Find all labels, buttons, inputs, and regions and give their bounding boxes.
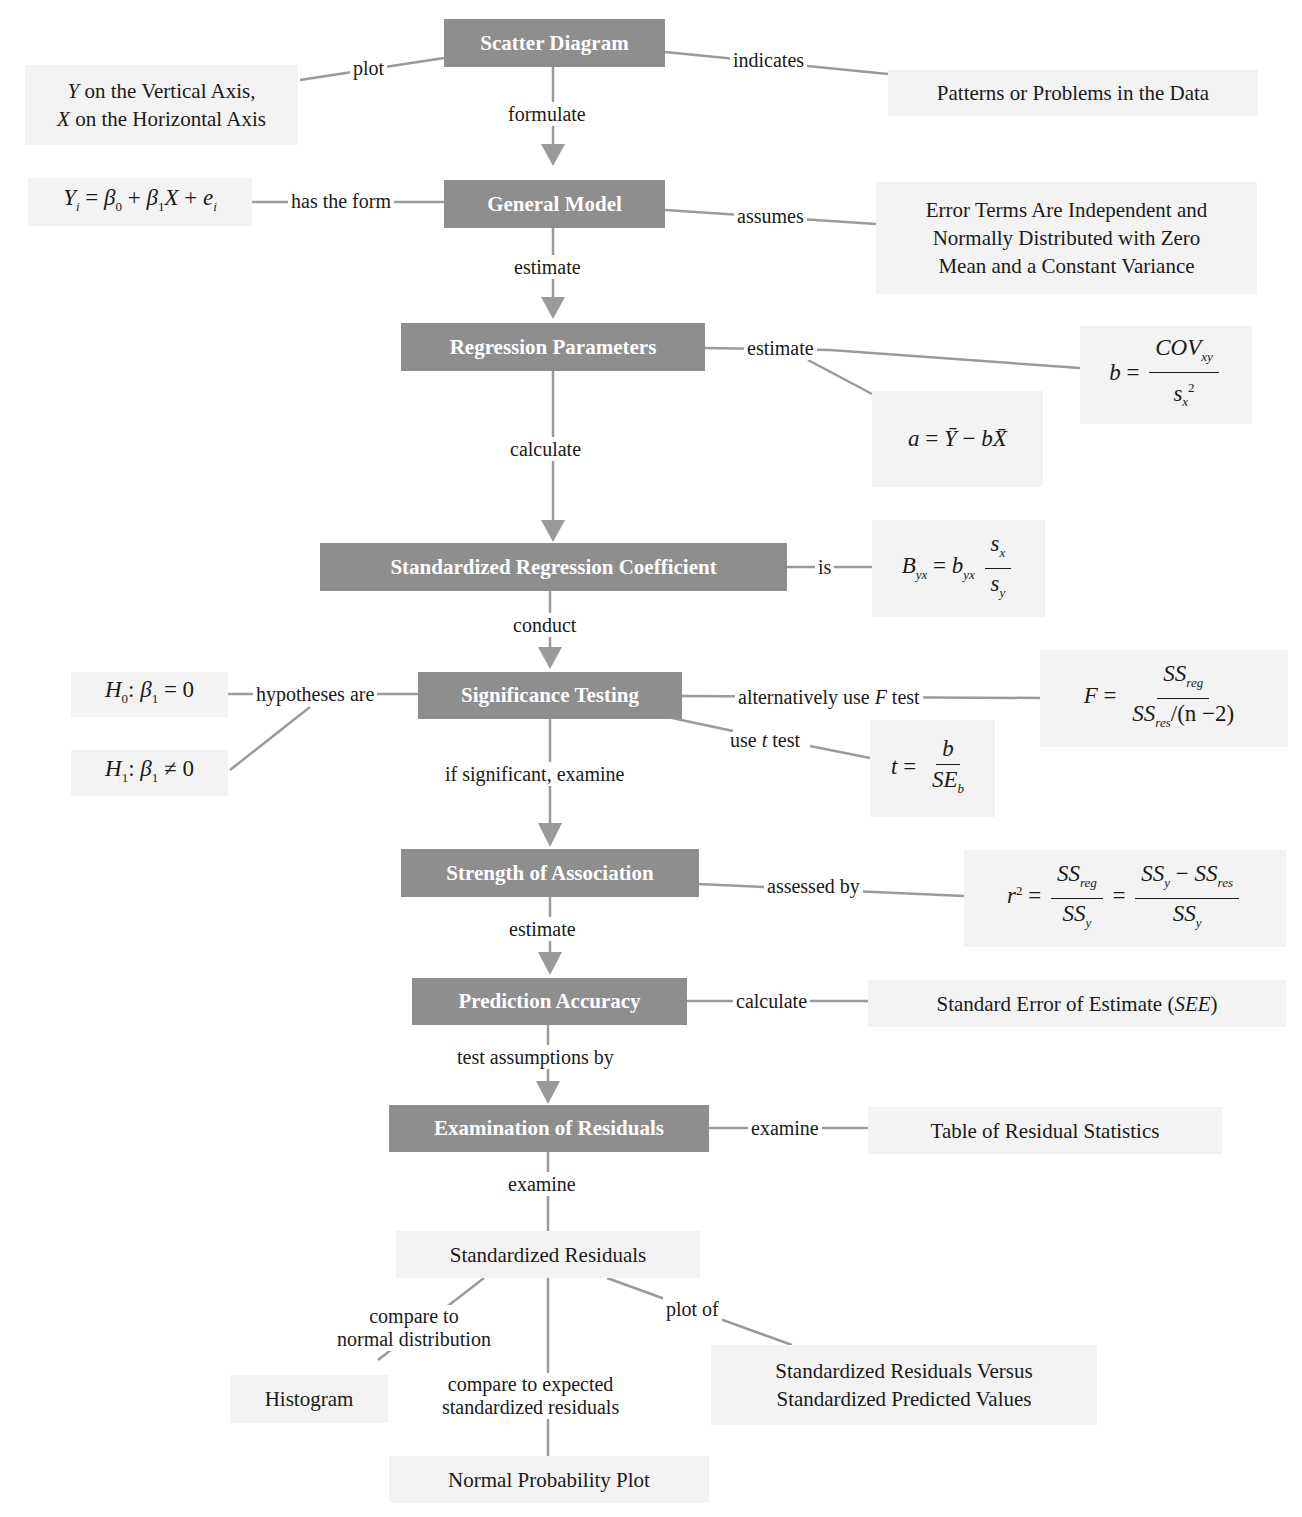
patterns-text: Patterns or Problems in the Data <box>937 79 1209 107</box>
link-use-t-test: use t test <box>727 728 803 752</box>
detail-r2-formula: r2 = SSregSSy = SSy − SSresSSy <box>964 850 1286 947</box>
detail-normal-probability-plot: Normal Probability Plot <box>389 1456 709 1503</box>
link-calculate-see: calculate <box>733 989 810 1013</box>
detail-versus-plot: Standardized Residuals Versus Standardiz… <box>711 1345 1097 1425</box>
concept-prediction-accuracy: Prediction Accuracy <box>412 978 687 1025</box>
link-assumes: assumes <box>734 204 807 228</box>
r2-formula: r2 = SSregSSy = SSy − SSresSSy <box>1007 861 1243 935</box>
concept-regression-parameters: Regression Parameters <box>401 323 705 371</box>
h0-formula: H0: β1 = 0 <box>105 676 194 713</box>
detail-patterns: Patterns or Problems in the Data <box>888 70 1258 116</box>
f-test-formula: F = SSregSSres/(n −2) <box>1084 661 1244 735</box>
axes-y-var: Y <box>67 79 79 103</box>
detail-h1: H1: β1 ≠ 0 <box>71 750 228 796</box>
axes-line1: on the Vertical Axis, <box>79 79 255 103</box>
residual-table-text: Table of Residual Statistics <box>931 1117 1160 1145</box>
detail-f-formula: F = SSregSSres/(n −2) <box>1040 650 1288 747</box>
link-examine-residuals: examine <box>505 1172 579 1196</box>
link-estimate-params: estimate <box>744 336 817 360</box>
concept-standardized-regression-coefficient: Standardized Regression Coefficient <box>320 543 787 591</box>
link-indicates: indicates <box>730 48 807 72</box>
std-residuals-text: Standardized Residuals <box>450 1241 647 1269</box>
detail-axes: Y on the Vertical Axis, X on the Horizon… <box>25 65 298 145</box>
link-estimate-accuracy: estimate <box>506 917 579 941</box>
link-hypotheses-are: hypotheses are <box>253 682 377 706</box>
link-conduct: conduct <box>510 613 579 637</box>
h1-formula: H1: β1 ≠ 0 <box>105 755 194 792</box>
versus-line-2: Standardized Predicted Values <box>776 1385 1031 1413</box>
detail-histogram: Histogram <box>230 1375 388 1423</box>
link-test-assumptions: test assumptions by <box>454 1045 617 1069</box>
detail-model-formula: Yi = β0 + β1X + ei <box>28 178 252 226</box>
axes-line2: on the Horizontal Axis <box>70 107 266 131</box>
concept-general-model: General Model <box>444 180 665 228</box>
axes-x-var: X <box>57 107 70 131</box>
intercept-formula: a = Ȳ − bX̄ <box>908 425 1007 453</box>
versus-line-1: Standardized Residuals Versus <box>775 1357 1032 1385</box>
link-alternatively-f-test: alternatively use F test <box>735 685 923 709</box>
see-text: Standard Error of Estimate (SEE) <box>936 990 1217 1018</box>
model-formula: Yi = β0 + β1X + ei <box>63 184 217 221</box>
std-coefficient-formula: Byx = byx sxsy <box>902 531 1016 605</box>
detail-assumptions: Error Terms Are Independent and Normally… <box>876 182 1257 294</box>
assumptions-line-2: Normally Distributed with Zero <box>933 224 1201 252</box>
t-test-formula: t = bSEb <box>891 736 974 802</box>
link-assessed-by: assessed by <box>764 874 863 898</box>
link-examine-table: examine <box>748 1116 822 1140</box>
concept-significance-testing: Significance Testing <box>418 672 682 719</box>
slope-formula: b = COVxysx2 <box>1109 335 1223 415</box>
link-formulate: formulate <box>505 102 589 126</box>
concept-strength-of-association: Strength of Association <box>401 849 699 897</box>
link-is: is <box>815 555 834 579</box>
link-has-the-form: has the form <box>288 189 394 213</box>
detail-t-formula: t = bSEb <box>870 720 995 817</box>
link-compare-expected: compare to expected standardized residua… <box>439 1373 622 1419</box>
link-compare-normal: compare to normal distribution <box>334 1305 494 1351</box>
link-if-significant: if significant, examine <box>442 762 627 786</box>
assumptions-line-1: Error Terms Are Independent and <box>926 196 1208 224</box>
detail-see: Standard Error of Estimate (SEE) <box>868 980 1286 1027</box>
normal-plot-text: Normal Probability Plot <box>448 1466 650 1494</box>
concept-scatter-diagram: Scatter Diagram <box>444 19 665 67</box>
detail-residual-table: Table of Residual Statistics <box>868 1107 1222 1154</box>
link-estimate-model: estimate <box>511 255 584 279</box>
detail-intercept-formula: a = Ȳ − bX̄ <box>872 391 1043 487</box>
link-calculate-coefficient: calculate <box>507 437 584 461</box>
link-plot-of: plot of <box>663 1297 722 1321</box>
histogram-text: Histogram <box>265 1385 354 1413</box>
link-plot: plot <box>350 56 387 80</box>
concept-examination-of-residuals: Examination of Residuals <box>389 1105 709 1152</box>
detail-std-coefficient-formula: Byx = byx sxsy <box>872 520 1045 617</box>
assumptions-line-3: Mean and a Constant Variance <box>938 252 1194 280</box>
detail-h0: H0: β1 = 0 <box>71 672 228 717</box>
detail-standardized-residuals: Standardized Residuals <box>396 1231 700 1278</box>
detail-slope-formula: b = COVxysx2 <box>1080 326 1252 424</box>
